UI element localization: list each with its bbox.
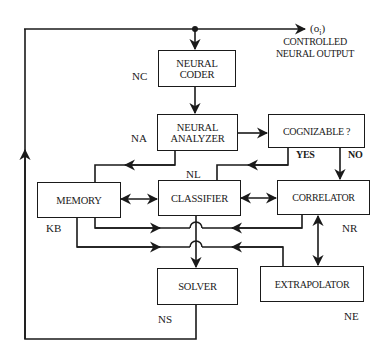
analyzer-line1: NEURAL [171, 122, 225, 133]
output-caption: CONTROLLED NEURAL OUTPUT [275, 36, 355, 60]
coder-line2: CODER [176, 69, 217, 80]
solver-tag: NS [158, 313, 172, 325]
memory-tag: KB [46, 222, 61, 234]
analyzer-tag: NA [131, 132, 147, 144]
solver-label: SOLVER [178, 281, 217, 292]
solver-block: SOLVER [157, 268, 238, 305]
coder-line1: NEURAL [176, 58, 217, 69]
correlator-tag: NR [342, 222, 357, 234]
classifier-tag: NL [186, 168, 201, 180]
cognizable-label: COGNIZABLE ? [283, 126, 350, 137]
cognizable-decision-block: COGNIZABLE ? [268, 114, 365, 148]
yes-label: YES [296, 149, 315, 161]
neural-analyzer-block: NEURALANALYZER [157, 114, 238, 151]
extrapolator-block: EXTRAPOLATOR [260, 266, 364, 302]
output-line2: NEURAL OUTPUT [275, 48, 355, 60]
coder-tag: NC [132, 70, 147, 82]
analyzer-line2: ANALYZER [171, 133, 225, 144]
no-label: NO [348, 149, 362, 161]
output-line1: CONTROLLED [275, 36, 355, 48]
classifier-label: CLASSIFIER [171, 193, 228, 204]
correlator-label: CORRELATOR [292, 192, 354, 203]
correlator-block: CORRELATOR [277, 180, 370, 215]
neural-coder-block: NEURALCODER [158, 50, 236, 87]
extrapolator-tag: NE [344, 310, 359, 322]
memory-label: MEMORY [56, 195, 101, 206]
classifier-block: CLASSIFIER [158, 180, 241, 216]
extrapolator-label: EXTRAPOLATOR [275, 279, 350, 290]
memory-block: MEMORY [37, 182, 121, 218]
